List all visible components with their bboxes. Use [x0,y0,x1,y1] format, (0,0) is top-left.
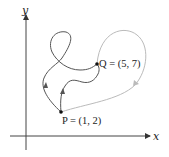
y-axis-label: y [21,4,29,17]
loop-path [43,32,97,112]
point-p [59,110,63,114]
point-p-label: P = (1, 2) [62,115,102,127]
x-axis-label: x [153,130,160,143]
point-q-label: Q = (5, 7) [99,58,141,70]
outer-path [61,30,146,112]
diagram-canvas: x y P = (1, 2) Q = (5, 7) [0,0,169,157]
wiggle-path [61,64,99,112]
wiggle-path-arrow-icon [60,88,65,94]
loop-path-arrow-icon [43,82,48,88]
